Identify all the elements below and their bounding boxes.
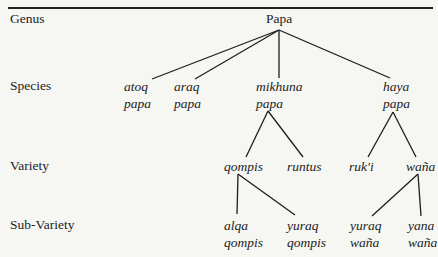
node-species-araq-papa: araq papa (174, 78, 201, 112)
node-line2: papa (383, 95, 410, 112)
node-variety-ruki: ruk'i (349, 158, 374, 175)
edge-qompis-yuraq (238, 174, 295, 215)
node-subvariety-yuraq-wana: yuraq waña (350, 217, 382, 251)
node-species-mikhuna-papa: mikhuna papa (256, 78, 303, 112)
node-line2: qompis (224, 234, 263, 251)
node-variety-qompis: qompis (224, 158, 263, 175)
node-variety-wana: waña (406, 158, 435, 175)
edge-papa-araq (195, 30, 279, 79)
node-line2: papa (174, 95, 201, 112)
node-subvariety-alqa-qompis: alqa qompis (224, 217, 263, 251)
node-line1: atoq (124, 78, 151, 95)
node-line2: waña (350, 234, 382, 251)
edge-mikhuna-qompis (246, 111, 268, 157)
edge-haya-ruki (368, 112, 393, 157)
node-line1: yuraq (287, 217, 326, 234)
node-line1: alqa (224, 217, 263, 234)
node-species-atoq-papa: atoq papa (124, 78, 151, 112)
node-line2: qompis (287, 234, 326, 251)
node-line1: haya (383, 78, 410, 95)
edge-papa-haya (279, 30, 390, 78)
node-line1: araq (174, 78, 201, 95)
edge-qompis-alqa (237, 174, 238, 214)
node-line2: papa (124, 95, 151, 112)
node-species-haya-papa: haya papa (383, 78, 410, 112)
edge-haya-wana (393, 112, 416, 157)
node-genus-papa: Papa (266, 12, 292, 26)
node-line1: yuraq (350, 217, 382, 234)
edge-wana-yuraq (372, 174, 418, 216)
node-variety-runtus: runtus (287, 158, 322, 175)
edge-wana-yana (418, 174, 421, 216)
node-line2: papa (256, 95, 303, 112)
node-subvariety-yana-wana: yana waña (408, 217, 437, 251)
edge-papa-atoq (152, 30, 279, 79)
node-line1: mikhuna (256, 78, 303, 95)
node-line1: yana (408, 217, 437, 234)
node-line2: waña (408, 234, 437, 251)
node-subvariety-yuraq-qompis: yuraq qompis (287, 217, 326, 251)
edge-mikhuna-runtus (268, 111, 303, 157)
